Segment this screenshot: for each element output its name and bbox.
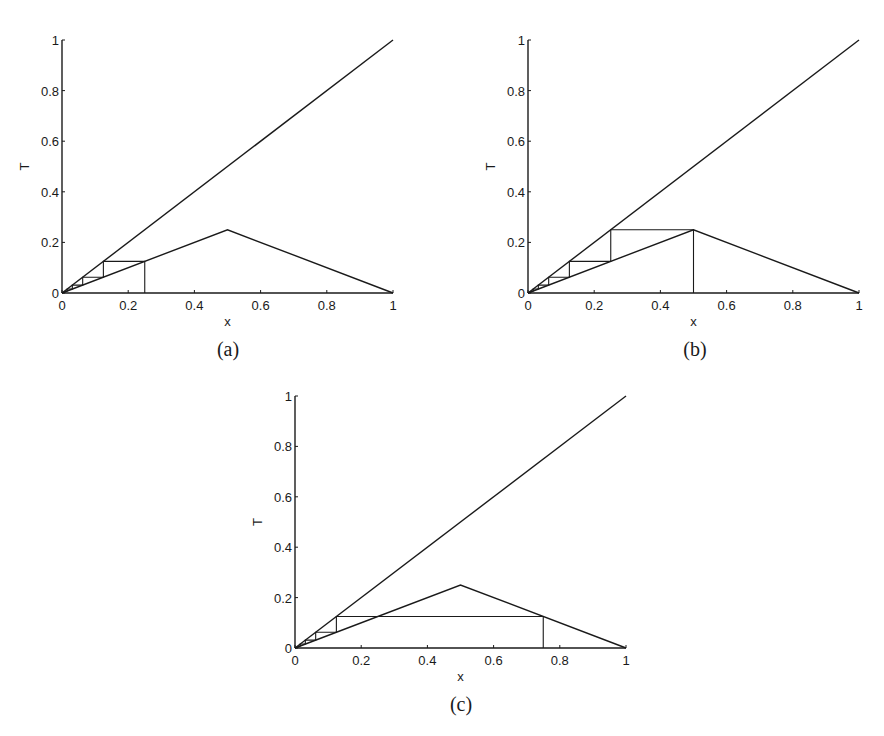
y-tick-label: 0.4	[274, 540, 292, 555]
x-tick-label: 0.4	[418, 653, 436, 668]
y-axis-label: T	[250, 518, 265, 526]
x-tick-label: 0.8	[551, 653, 569, 668]
x-axis-label: x	[457, 669, 464, 684]
y-tick-label: 0	[285, 641, 292, 656]
cobweb-path	[295, 617, 543, 649]
y-tick-label: 0.8	[274, 439, 292, 454]
x-tick-label: 1	[622, 653, 629, 668]
x-tick-label: 0.6	[485, 653, 503, 668]
y-tick-label: 0.2	[274, 591, 292, 606]
chart-panel-c: 00.20.40.60.8100.20.40.60.81xT (c)	[0, 0, 884, 736]
chart-plot-c: 00.20.40.60.8100.20.40.60.81xT	[0, 0, 884, 736]
chart-caption-c: (c)	[431, 693, 491, 716]
x-tick-label: 0.2	[352, 653, 370, 668]
y-tick-label: 0.6	[274, 490, 292, 505]
identity-line	[295, 396, 626, 648]
y-tick-label: 1	[285, 389, 292, 404]
x-tick-label: 0	[291, 653, 298, 668]
